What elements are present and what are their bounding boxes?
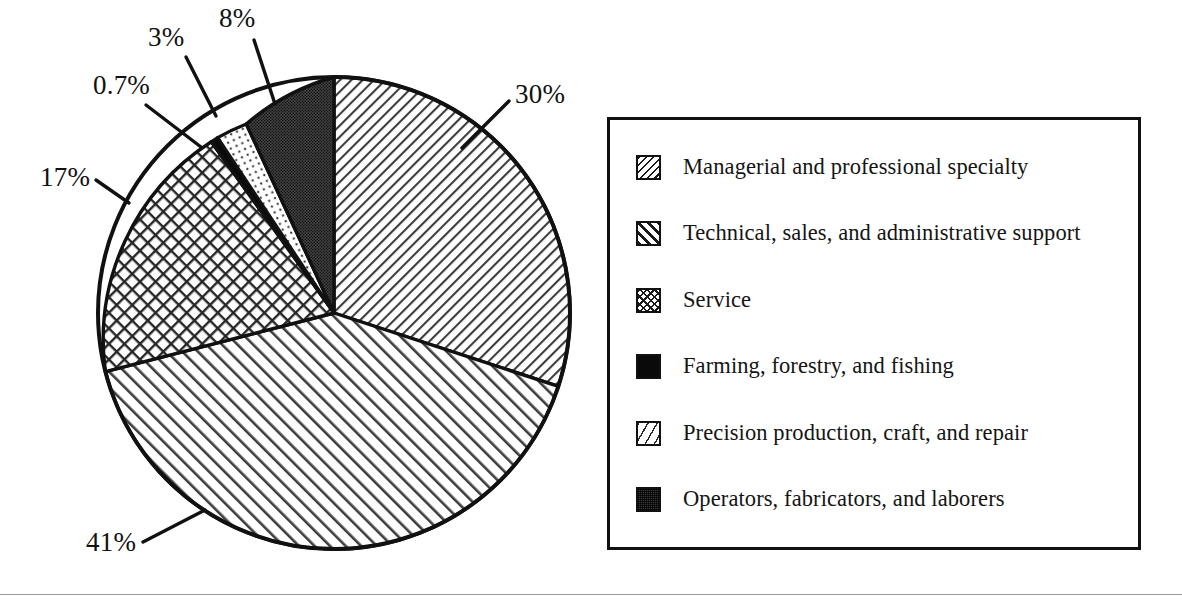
legend: Managerial and professional specialty Te… [607, 117, 1141, 550]
slice-label-precision: 3% [148, 22, 184, 53]
legend-item-service: Service [610, 273, 1138, 327]
dots-light-swatch-icon [636, 421, 661, 446]
slice-label-farming: 0.7% [93, 70, 150, 101]
legend-item-label: Precision production, craft, and repair [683, 421, 1028, 446]
solid-black-swatch-icon [636, 354, 661, 379]
legend-item-farming: Farming, forestry, and fishing [610, 340, 1138, 394]
slice-label-managerial: 30% [515, 79, 565, 110]
legend-item-label: Managerial and professional specialty [683, 155, 1028, 180]
legend-list: Managerial and professional specialty Te… [610, 120, 1138, 547]
leader-line-3 [186, 57, 216, 116]
leader-line-41 [143, 510, 205, 542]
slice-label-technical: 41% [86, 527, 136, 558]
legend-item-managerial: Managerial and professional specialty [610, 140, 1138, 194]
stipple-dark-swatch-icon [636, 487, 661, 512]
legend-item-operators: Operators, fabricators, and laborers [610, 473, 1138, 527]
figure-baseline-rule [0, 594, 1182, 595]
slice-label-service: 17% [40, 162, 90, 193]
legend-item-technical: Technical, sales, and administrative sup… [610, 207, 1138, 261]
legend-item-label: Farming, forestry, and fishing [683, 354, 954, 379]
legend-item-label: Technical, sales, and administrative sup… [683, 221, 1081, 246]
legend-item-precision: Precision production, craft, and repair [610, 406, 1138, 460]
pie-chart-figure: 30% 8% 3% 0.7% 17% 41% Managerial and pr… [0, 0, 1182, 607]
pie-slices [98, 77, 570, 549]
leader-line-8 [254, 40, 275, 104]
hatch-wide-swatch-icon [636, 221, 661, 246]
leader-line-17 [96, 180, 129, 203]
legend-item-label: Service [683, 288, 751, 313]
legend-item-label: Operators, fabricators, and laborers [683, 487, 1005, 512]
hatch-fine-swatch-icon [636, 155, 661, 180]
crosshatch-swatch-icon [636, 288, 661, 313]
slice-label-operators: 8% [219, 3, 255, 34]
